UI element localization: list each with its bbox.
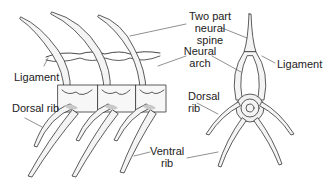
label-neural-arch: Neural arch bbox=[182, 45, 218, 69]
label-dorsal-rib-lateral: Dorsal rib bbox=[12, 102, 59, 114]
cross-neural-spine bbox=[244, 14, 256, 52]
label-ligament-cross-section: Ligament bbox=[277, 58, 322, 70]
label-line: Neural bbox=[182, 45, 218, 57]
neural-spine-2 bbox=[51, 12, 110, 92]
cross-ventral-rib-left bbox=[218, 118, 246, 167]
label-line: rib bbox=[188, 102, 220, 114]
label-ligament-lateral: Ligament bbox=[14, 71, 59, 83]
label-line: rib bbox=[150, 157, 184, 169]
label-line: Dorsal bbox=[188, 90, 220, 102]
cross-ventral-rib-right bbox=[254, 118, 282, 165]
label-line: Ventral bbox=[150, 145, 184, 157]
label-two-part-neural-spine: Two part neural spine bbox=[184, 10, 236, 46]
label-dorsal-rib-center: Dorsal rib bbox=[188, 90, 220, 114]
label-line: neural bbox=[184, 22, 236, 34]
label-line: Two part bbox=[184, 10, 236, 22]
label-line: arch bbox=[182, 57, 218, 69]
label-ventral-rib: Ventral rib bbox=[150, 145, 184, 169]
